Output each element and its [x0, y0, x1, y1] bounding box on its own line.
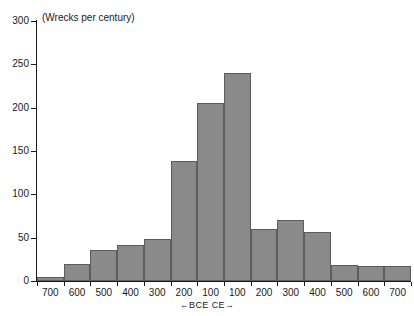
bar	[224, 73, 251, 281]
x-axis-tick	[277, 282, 278, 286]
x-axis-tick-label: 300	[282, 287, 299, 298]
y-axis-tick-label: 250	[1, 59, 29, 69]
x-axis-tick	[224, 282, 225, 286]
x-axis-tick-label: 700	[42, 287, 59, 298]
x-axis-tick-label: 100	[202, 287, 219, 298]
x-axis-tick-label: 100	[229, 287, 246, 298]
bar	[144, 239, 171, 281]
y-axis-tick	[31, 194, 36, 195]
y-axis-tick-label: 0	[1, 276, 29, 286]
wrecks-per-century-histogram: (Wrecks per century) 050100150200250300 …	[0, 0, 414, 316]
y-axis-tick-label: 300	[1, 16, 29, 26]
bar	[251, 229, 278, 281]
y-axis-tick-label-wrap: 100	[0, 189, 29, 199]
y-axis-tick-label-wrap: 250	[0, 59, 29, 69]
y-axis-tick	[31, 238, 36, 239]
y-axis-tick-label-wrap: 50	[0, 233, 29, 243]
y-axis-tick	[31, 281, 36, 282]
bar	[197, 103, 224, 281]
x-axis-tick	[37, 282, 38, 286]
x-axis-tick-label: 400	[122, 287, 139, 298]
x-axis-tick-label: 200	[176, 287, 193, 298]
x-axis-tick	[144, 282, 145, 286]
x-axis-tick-label: 700	[389, 287, 406, 298]
plot-area	[37, 21, 411, 281]
y-axis-tick	[31, 151, 36, 152]
y-axis-tick-label: 100	[1, 189, 29, 199]
x-axis-tick	[64, 282, 65, 286]
y-axis-tick	[31, 108, 36, 109]
x-axis-tick	[90, 282, 91, 286]
bar	[64, 264, 91, 281]
y-axis-tick-label-wrap: 150	[0, 146, 29, 156]
y-axis-tick-label: 150	[1, 146, 29, 156]
x-axis-tick-label: 600	[69, 287, 86, 298]
x-axis-tick	[304, 282, 305, 286]
x-axis-tick	[117, 282, 118, 286]
bar	[358, 266, 385, 281]
bar	[384, 266, 411, 281]
x-axis-tick	[358, 282, 359, 286]
x-axis-tick-label: 500	[336, 287, 353, 298]
x-axis-tick	[171, 282, 172, 286]
y-axis-tick-label-wrap: 0	[0, 276, 29, 286]
y-axis-tick-label-wrap: 200	[0, 103, 29, 113]
x-axis-caption: ←BCE CE→	[0, 300, 414, 310]
y-axis-tick	[31, 21, 36, 22]
y-axis-tick-label: 200	[1, 103, 29, 113]
y-axis-tick-label-wrap: 300	[0, 16, 29, 26]
y-axis-tick	[31, 64, 36, 65]
x-axis-tick	[197, 282, 198, 286]
x-axis-tick	[251, 282, 252, 286]
bar	[277, 220, 304, 281]
bar	[331, 265, 358, 281]
x-axis-tick	[411, 282, 412, 286]
bar	[171, 161, 198, 281]
x-axis-tick-label: 400	[309, 287, 326, 298]
x-axis-tick-label: 600	[363, 287, 380, 298]
x-axis-tick-label: 300	[149, 287, 166, 298]
x-axis-tick-label: 500	[95, 287, 112, 298]
bar	[117, 245, 144, 281]
x-axis-tick	[384, 282, 385, 286]
bar	[304, 232, 331, 281]
x-axis-tick	[331, 282, 332, 286]
x-axis-tick-label: 200	[256, 287, 273, 298]
bar	[90, 250, 117, 281]
bar	[37, 277, 64, 281]
y-axis-tick-label: 50	[1, 233, 29, 243]
